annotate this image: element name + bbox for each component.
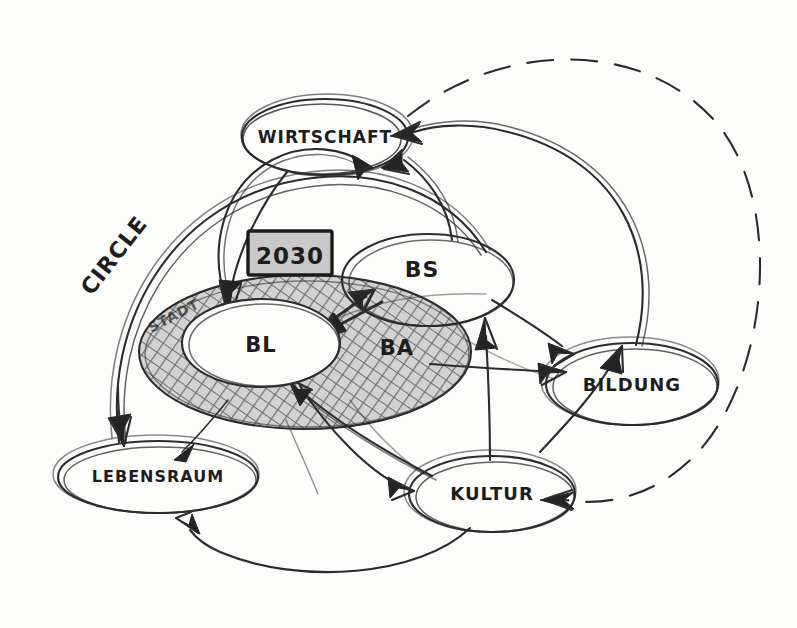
node-label-kultur: KULTUR <box>450 483 534 504</box>
hand-drawn-diagram: WIRTSCHAFT BS BL BA STADT BILDUNG <box>0 0 797 628</box>
node-label-bs: BS <box>405 257 440 282</box>
node-label-bildung: BILDUNG <box>583 374 681 395</box>
edge-bs-to-bildung <box>492 300 574 366</box>
node-label-bl: BL <box>245 333 276 357</box>
edge-kultur-to-lebensraum <box>176 512 470 572</box>
edge-kultur-to-bs <box>475 318 497 460</box>
node-kultur[interactable]: KULTUR <box>404 450 576 532</box>
node-bl[interactable]: BL <box>182 299 340 387</box>
node-label-wirtschaft: WIRTSCHAFT <box>258 127 392 147</box>
node-label-ba: BA <box>380 336 414 360</box>
annotation-year-box[interactable]: 2030 <box>248 231 332 275</box>
annotation-year-label: 2030 <box>256 243 324 269</box>
edge-wirtschaft-to-kultur-dashed <box>408 60 760 511</box>
edge-bs-to-wirtschaft <box>381 150 458 242</box>
node-bildung[interactable]: BILDUNG <box>541 337 719 425</box>
node-ba: BA <box>380 336 414 360</box>
diagram-canvas: WIRTSCHAFT BS BL BA STADT BILDUNG <box>0 0 797 628</box>
node-wirtschaft[interactable]: WIRTSCHAFT <box>241 94 413 176</box>
node-lebensraum[interactable]: LEBENSRAUM <box>53 435 259 513</box>
node-label-lebensraum: LEBENSRAUM <box>92 467 224 486</box>
